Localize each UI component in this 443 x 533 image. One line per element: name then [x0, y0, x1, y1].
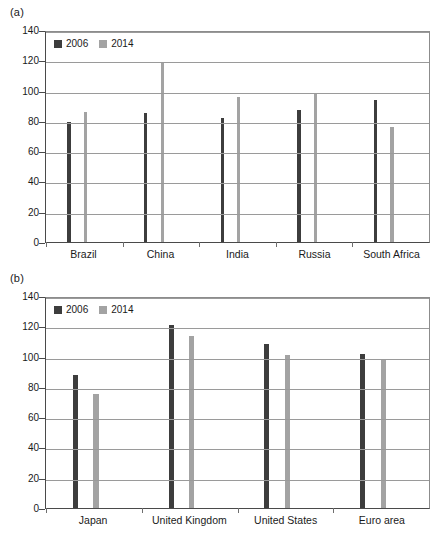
gridline — [46, 123, 429, 124]
bar-group — [333, 298, 429, 508]
x-axis-tick-mark — [142, 508, 143, 513]
plot-wrap-b: 2006 2014 020406080100120140 JapanUnited… — [0, 292, 443, 530]
x-axis-labels-a: BrazilChinaIndiaRussiaSouth Africa — [45, 248, 430, 264]
y-axis-tick-label: 80 — [5, 383, 39, 393]
bar-group — [352, 32, 429, 242]
bar-group — [238, 298, 334, 508]
gridline — [46, 359, 429, 360]
x-axis-tick-label: Euro area — [359, 514, 405, 526]
figure-root: (a) 2006 2014 020406080100120140 BrazilC… — [0, 0, 443, 533]
bar-2014[interactable] — [237, 97, 240, 242]
bar-2014[interactable] — [381, 360, 386, 508]
gridline — [46, 298, 429, 299]
y-axis-tick-mark — [39, 92, 45, 93]
x-axis-tick-label: United Kingdom — [152, 514, 227, 526]
gridline — [46, 93, 429, 94]
chart-panel-a: (a) 2006 2014 020406080100120140 BrazilC… — [0, 0, 443, 266]
y-axis-tick-label: 100 — [5, 87, 39, 97]
y-axis-tick-mark — [39, 31, 45, 32]
y-axis-tick-mark — [39, 213, 45, 214]
gridline — [46, 480, 429, 481]
chart-panel-b: (b) 2006 2014 020406080100120140 JapanUn… — [0, 266, 443, 533]
bar-2006[interactable] — [144, 113, 147, 242]
x-axis-tick-label: United States — [254, 514, 317, 526]
y-axis-tick-mark — [39, 479, 45, 480]
bar-2014[interactable] — [189, 336, 194, 508]
gridline — [46, 183, 429, 184]
bar-2014[interactable] — [84, 112, 87, 242]
x-axis-tick-label: China — [147, 248, 174, 260]
gridline — [46, 419, 429, 420]
plot-wrap-a: 2006 2014 020406080100120140 BrazilChina… — [0, 26, 443, 264]
x-axis-tick-mark — [333, 508, 334, 513]
bar-2014[interactable] — [93, 394, 98, 508]
x-axis-tick-label: Brazil — [70, 248, 96, 260]
bar-2014[interactable] — [285, 355, 290, 508]
x-axis-tick-label: Japan — [79, 514, 108, 526]
y-axis-tick-mark — [39, 61, 45, 62]
x-axis-tick-mark — [46, 242, 47, 247]
y-axis-tick-label: 60 — [5, 147, 39, 157]
bar-group — [123, 32, 200, 242]
gridline — [46, 389, 429, 390]
panel-b-label: (b) — [10, 272, 24, 284]
y-axis-tick-mark — [39, 152, 45, 153]
y-axis-tick-mark — [39, 388, 45, 389]
bar-2006[interactable] — [297, 110, 300, 242]
y-axis-tick-label: 80 — [5, 117, 39, 127]
y-axis-tick-mark — [39, 418, 45, 419]
bar-group — [46, 298, 142, 508]
y-axis-tick-label: 140 — [5, 26, 39, 36]
y-axis-tick-label: 140 — [5, 292, 39, 302]
bar-2006[interactable] — [264, 344, 269, 508]
bar-group — [46, 32, 123, 242]
bar-group — [199, 32, 276, 242]
y-axis-tick-mark — [39, 297, 45, 298]
y-axis-tick-mark — [39, 182, 45, 183]
x-axis-tick-label: Russia — [298, 248, 330, 260]
y-axis-tick-label: 100 — [5, 353, 39, 363]
bar-2006[interactable] — [221, 118, 224, 242]
bar-2014[interactable] — [314, 93, 317, 242]
y-axis-tick-label: 40 — [5, 443, 39, 453]
bar-series-container-b — [46, 298, 429, 508]
x-axis-tick-mark — [238, 508, 239, 513]
bar-2014[interactable] — [161, 62, 164, 242]
y-axis-tick-label: 60 — [5, 413, 39, 423]
bar-2006[interactable] — [73, 375, 78, 508]
gridline — [46, 153, 429, 154]
y-axis-tick-label: 20 — [5, 474, 39, 484]
bar-2006[interactable] — [374, 100, 377, 242]
bar-group — [142, 298, 238, 508]
y-axis-tick-label: 120 — [5, 56, 39, 66]
gridline — [46, 328, 429, 329]
gridline — [46, 32, 429, 33]
bar-series-container-a — [46, 32, 429, 242]
y-axis-tick-mark — [39, 122, 45, 123]
y-axis-tick-label: 120 — [5, 322, 39, 332]
y-axis-tick-mark — [39, 243, 45, 244]
plot-area-a: 2006 2014 — [45, 31, 430, 243]
x-axis-tick-mark — [123, 242, 124, 247]
gridline — [46, 62, 429, 63]
bar-2014[interactable] — [390, 127, 393, 242]
y-axis-tick-mark — [39, 327, 45, 328]
y-axis-tick-mark — [39, 448, 45, 449]
y-axis-tick-label: 0 — [5, 504, 39, 514]
y-axis-tick-mark — [39, 358, 45, 359]
y-axis-tick-label: 20 — [5, 208, 39, 218]
y-axis-tick-mark — [39, 509, 45, 510]
gridline — [46, 449, 429, 450]
x-axis-tick-mark — [276, 242, 277, 247]
bar-2006[interactable] — [67, 122, 70, 242]
y-axis-tick-label: 40 — [5, 177, 39, 187]
bar-2006[interactable] — [360, 354, 365, 508]
x-axis-tick-mark — [352, 242, 353, 247]
x-axis-tick-mark — [46, 508, 47, 513]
panel-a-label: (a) — [10, 6, 24, 18]
y-axis-tick-label: 0 — [5, 238, 39, 248]
x-axis-tick-label: India — [226, 248, 249, 260]
plot-area-b: 2006 2014 — [45, 297, 430, 509]
x-axis-tick-mark — [199, 242, 200, 247]
x-axis-tick-label: South Africa — [363, 248, 420, 260]
